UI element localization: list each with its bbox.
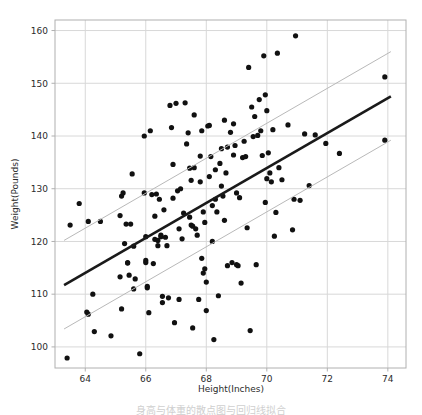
scatter-point bbox=[193, 226, 198, 231]
scatter-point bbox=[119, 306, 124, 311]
scatter-point bbox=[130, 171, 135, 176]
scatter-point bbox=[163, 235, 168, 240]
scatter-point bbox=[214, 209, 219, 214]
scatter-point bbox=[92, 329, 97, 334]
scatter-point bbox=[77, 201, 82, 206]
scatter-point bbox=[127, 273, 132, 278]
scatter-point bbox=[157, 197, 162, 202]
scatter-point bbox=[246, 65, 251, 70]
scatter-point bbox=[313, 132, 318, 137]
scatter-point bbox=[125, 260, 130, 265]
scatter-point bbox=[108, 333, 113, 338]
x-tick-label: 72 bbox=[322, 374, 333, 384]
scatter-point bbox=[158, 234, 163, 239]
scatter-point bbox=[261, 53, 266, 58]
scatter-point bbox=[160, 294, 165, 299]
scatter-point bbox=[258, 128, 263, 133]
scatter-point bbox=[145, 284, 150, 289]
scatter-point bbox=[68, 223, 73, 228]
scatter-point bbox=[302, 131, 307, 136]
scatter-point bbox=[204, 279, 209, 284]
scatter-point bbox=[323, 141, 328, 146]
scatter-point bbox=[260, 153, 265, 158]
scatter-point bbox=[151, 261, 156, 266]
y-tick-label: 160 bbox=[31, 26, 48, 36]
scatter-point bbox=[257, 97, 262, 102]
scatter-point bbox=[169, 125, 174, 130]
scatter-point bbox=[198, 153, 203, 158]
scatter-point bbox=[152, 214, 157, 219]
scatter-point bbox=[133, 276, 138, 281]
scatter-point bbox=[225, 263, 230, 268]
scatter-point bbox=[196, 297, 201, 302]
scatter-point bbox=[252, 114, 257, 119]
scatter-point bbox=[266, 150, 271, 155]
scatter-point bbox=[160, 300, 165, 305]
scatter-point bbox=[86, 219, 91, 224]
scatter-point bbox=[170, 196, 175, 201]
scatter-point bbox=[297, 198, 302, 203]
figure-caption: 身高与体重的散点图与回归线拟合 bbox=[0, 404, 422, 415]
scatter-point bbox=[216, 293, 221, 298]
scatter-point bbox=[285, 122, 290, 127]
scatter-point bbox=[120, 190, 125, 195]
scatter-point bbox=[192, 112, 197, 117]
y-tick-label: 130 bbox=[31, 184, 48, 194]
scatter-point bbox=[263, 200, 268, 205]
scatter-point bbox=[248, 328, 253, 333]
scatter-point bbox=[276, 165, 281, 170]
scatter-point bbox=[222, 118, 227, 123]
scatter-point bbox=[207, 123, 212, 128]
scatter-point bbox=[207, 174, 212, 179]
scatter-point bbox=[202, 266, 207, 271]
scatter-point bbox=[232, 143, 237, 148]
scatter-point bbox=[117, 213, 122, 218]
scatter-point bbox=[164, 243, 169, 248]
scatter-point bbox=[204, 308, 209, 313]
scatter-point bbox=[264, 108, 269, 113]
scatter-point bbox=[251, 134, 256, 139]
scatter-point bbox=[90, 292, 95, 297]
scatter-point bbox=[128, 221, 133, 226]
scatter-point bbox=[137, 351, 142, 356]
scatter-point bbox=[202, 220, 207, 225]
scatter-point bbox=[178, 186, 183, 191]
scatter-point bbox=[176, 297, 181, 302]
scatter-point bbox=[176, 226, 181, 231]
scatter-point bbox=[195, 233, 200, 238]
y-tick-label: 150 bbox=[31, 79, 48, 89]
scatter-point bbox=[255, 133, 260, 138]
scatter-point bbox=[154, 191, 159, 196]
x-tick-label: 74 bbox=[382, 374, 394, 384]
scatter-point bbox=[267, 170, 272, 175]
scatter-point bbox=[234, 190, 239, 195]
x-tick-label: 70 bbox=[261, 374, 273, 384]
scatter-point bbox=[272, 234, 277, 239]
scatter-point bbox=[235, 263, 240, 268]
figure-caption-clipped: 身高与体重的散点图与回归线拟合 bbox=[0, 404, 422, 415]
scatter-point bbox=[155, 243, 160, 248]
scatter-point bbox=[275, 51, 280, 56]
scatter-plot-figure: 646668707274 100110120130140150160 Heigh… bbox=[0, 0, 422, 415]
scatter-point bbox=[65, 355, 70, 360]
scatter-point bbox=[187, 215, 192, 220]
scatter-point bbox=[213, 167, 218, 172]
scatter-point bbox=[122, 241, 127, 246]
scatter-point bbox=[273, 210, 278, 215]
scatter-point bbox=[228, 130, 233, 135]
scatter-point bbox=[238, 281, 243, 286]
scatter-point bbox=[337, 151, 342, 156]
x-tick-label: 66 bbox=[140, 374, 152, 384]
x-axis-title: Height(Inches) bbox=[198, 384, 264, 394]
y-axis-title: Weight(Pounds) bbox=[10, 159, 20, 230]
scatter-point bbox=[186, 130, 191, 135]
scatter-point bbox=[254, 262, 259, 267]
y-tick-label: 110 bbox=[31, 289, 48, 299]
scatter-point bbox=[237, 195, 242, 200]
y-tick-label: 140 bbox=[31, 131, 48, 141]
scatter-point bbox=[146, 310, 151, 315]
scatter-point bbox=[293, 33, 298, 38]
scatter-point bbox=[199, 128, 204, 133]
scatter-point bbox=[223, 170, 228, 175]
scatter-point bbox=[184, 141, 189, 146]
